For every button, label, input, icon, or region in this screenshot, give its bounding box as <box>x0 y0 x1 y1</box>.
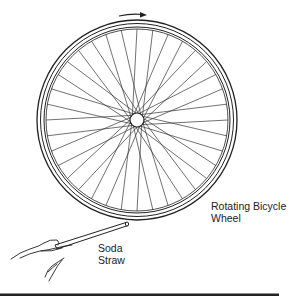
wheel-label: Rotating Bicycle Wheel <box>211 200 286 224</box>
bottom-rule <box>0 294 279 297</box>
spoke <box>132 29 137 116</box>
spoke <box>137 126 207 178</box>
spoke <box>47 104 132 124</box>
spoke <box>51 89 135 114</box>
straw-label-line1: Soda <box>98 242 125 254</box>
spoke <box>46 115 133 120</box>
wheel-hub <box>130 113 144 127</box>
wheel-label-line1: Rotating Bicycle <box>211 200 286 212</box>
spoke <box>143 120 195 190</box>
spoke <box>133 124 153 209</box>
spoke <box>141 116 226 136</box>
spoke <box>106 34 131 118</box>
spoke <box>143 122 168 206</box>
bicycle-wheel-diagram <box>0 0 296 300</box>
spoke <box>67 62 137 114</box>
rotation-arrow-icon <box>119 12 147 18</box>
spoke <box>139 126 223 151</box>
spoke <box>121 30 141 115</box>
straw-label: Soda Straw <box>98 242 125 266</box>
spoke <box>137 124 142 211</box>
wheel-label-line2: Wheel <box>211 212 286 224</box>
straw-label-line2: Straw <box>98 254 125 266</box>
spoke <box>141 120 228 125</box>
spoke <box>79 50 131 120</box>
